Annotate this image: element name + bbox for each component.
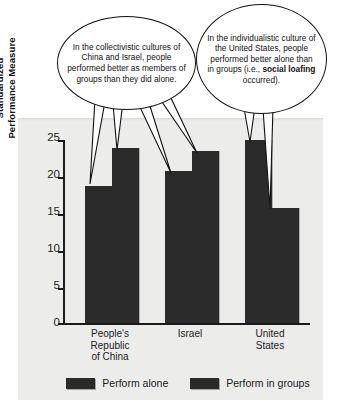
legend-swatch-perform-in-groups [190, 378, 219, 389]
y-tick-25 [58, 140, 64, 142]
x-category-label-israel: Israel [149, 328, 231, 340]
bar-series-container [65, 138, 310, 323]
y-axis-title-line-2: Performance Measure [6, 8, 18, 168]
y-tick-5 [58, 288, 64, 290]
x-category-china-line-1: People's [69, 328, 151, 340]
bar-group-china [85, 138, 139, 323]
y-tick-label-10: 10 [36, 243, 60, 255]
callout-bubble-left: In the collectivistic cultures of China … [57, 16, 196, 110]
x-category-us-line-1: United [229, 328, 311, 340]
x-axis-line [63, 323, 310, 325]
bar-group-united-states [245, 138, 299, 323]
y-tick-label-15: 15 [36, 206, 60, 218]
x-category-label-united-states: United States [229, 328, 311, 351]
legend-label-perform-alone: Perform alone [102, 377, 168, 389]
x-category-israel-line-1: Israel [149, 328, 231, 340]
bar-israel-perform-in-groups[interactable] [192, 151, 219, 323]
legend-item-perform-in-groups[interactable]: Perform in groups [190, 377, 309, 389]
y-tick-0 [58, 323, 64, 325]
chart-legend: Perform alone Perform in groups [63, 375, 313, 391]
callout-bubble-right: In the individualistic culture of the Un… [196, 4, 327, 114]
y-tick-10 [58, 251, 64, 253]
legend-item-perform-alone[interactable]: Perform alone [66, 377, 168, 389]
bar-china-perform-alone[interactable] [85, 186, 112, 323]
x-category-us-line-2: States [229, 340, 311, 352]
legend-swatch-perform-alone [66, 378, 95, 389]
x-category-label-china: People's Republic of China [69, 328, 151, 363]
callout-right-text-after: occurred). [243, 75, 280, 85]
y-axis-title: Standardized Performance Measure [0, 8, 18, 168]
callout-left-text: In the collectivistic cultures of China … [58, 42, 195, 84]
bar-united-states-perform-alone[interactable] [245, 140, 272, 323]
callout-right-text: In the individualistic culture of the Un… [197, 33, 326, 86]
x-category-china-line-2: Republic [69, 340, 151, 352]
y-tick-label-25: 25 [36, 132, 60, 144]
bar-israel-perform-alone[interactable] [165, 171, 192, 323]
x-category-china-line-3: of China [69, 351, 151, 363]
y-tick-label-20: 20 [36, 169, 60, 181]
y-tick-15 [58, 214, 64, 216]
y-tick-label-0: 0 [36, 317, 60, 329]
bar-united-states-perform-in-groups[interactable] [272, 208, 299, 323]
figure-root: Standardized Performance Measure 25 20 1… [0, 0, 341, 419]
bar-group-israel [165, 138, 219, 323]
callout-right-emphasis: social loafing [262, 64, 315, 74]
y-tick-label-5: 5 [36, 280, 60, 292]
y-tick-20 [58, 177, 64, 179]
y-axis-tick-labels: 25 20 15 10 5 0 [36, 132, 60, 332]
bar-china-perform-in-groups[interactable] [112, 148, 139, 323]
x-axis-category-labels: People's Republic of China Israel United… [63, 328, 310, 373]
legend-label-perform-in-groups: Perform in groups [226, 377, 309, 389]
